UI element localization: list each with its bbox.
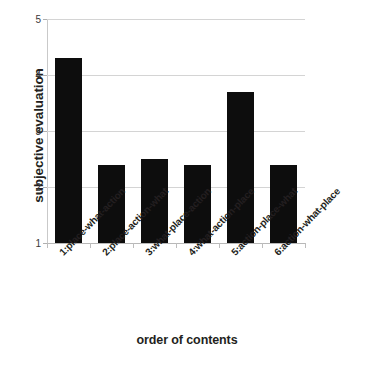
x-tick-mark-5	[219, 243, 220, 248]
bar-chart-figure: subjective evaluation 12345 1:place-what…	[0, 0, 374, 367]
y-tick-mark-3	[43, 131, 47, 132]
y-tick-mark-5	[43, 19, 47, 20]
y-tick-label-4: 4	[35, 70, 41, 81]
gridline-3	[47, 131, 305, 132]
gridline-2	[47, 187, 305, 188]
bar-4	[184, 165, 211, 243]
y-tick-mark-2	[43, 187, 47, 188]
x-tick-mark-1	[47, 243, 48, 248]
x-tick-mark-3	[133, 243, 134, 248]
y-tick-label-1: 1	[35, 238, 41, 249]
bar-1	[55, 58, 82, 243]
x-tick-mark-end	[305, 243, 306, 248]
bar-2	[98, 165, 125, 243]
bar-6	[270, 165, 297, 243]
bar-3	[141, 159, 168, 243]
gridline-5	[47, 19, 305, 20]
bar-5	[227, 92, 254, 243]
y-tick-label-2: 2	[35, 182, 41, 193]
y-tick-mark-4	[43, 75, 47, 76]
x-tick-mark-6	[262, 243, 263, 248]
x-tick-mark-2	[90, 243, 91, 248]
y-tick-label-3: 3	[35, 126, 41, 137]
x-tick-mark-4	[176, 243, 177, 248]
plot-area: 12345	[47, 19, 305, 243]
y-tick-label-5: 5	[35, 14, 41, 25]
x-axis-title: order of contents	[0, 333, 374, 347]
gridline-4	[47, 75, 305, 76]
